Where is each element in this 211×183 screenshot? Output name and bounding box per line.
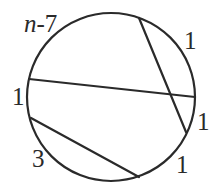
circle-chord-diagram: n-7 1 1 1 1 3 (0, 0, 211, 183)
arc-label-bottom-left: 3 (32, 145, 45, 172)
arc-label-top-right: 1 (184, 27, 197, 54)
circle-outline (27, 13, 195, 181)
arc-label-bottom-right: 1 (176, 151, 189, 178)
arc-label-top-left: n-7 (24, 10, 57, 37)
arc-label-right: 1 (197, 108, 210, 135)
arc-label-offset: -7 (37, 10, 58, 37)
chord-lower (31, 118, 139, 177)
chord-steep (139, 18, 186, 132)
arc-label-variable: n (24, 10, 37, 37)
arc-label-left: 1 (12, 83, 25, 110)
